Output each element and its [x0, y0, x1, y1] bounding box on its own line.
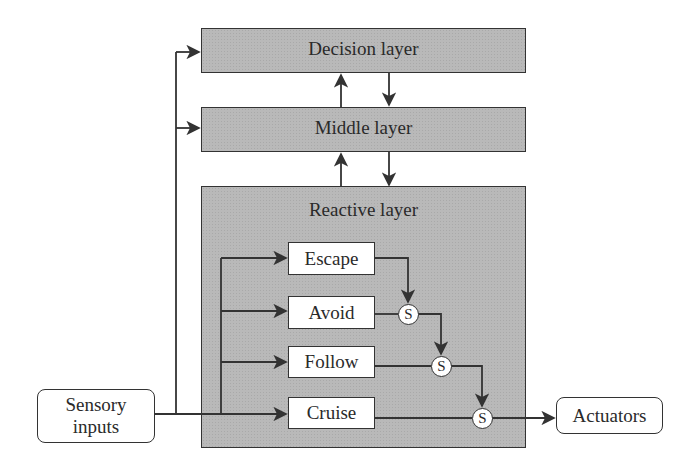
actuators-box: Actuators — [556, 397, 663, 434]
behavior-escape: Escape — [288, 242, 375, 275]
behavior-cruise: Cruise — [288, 397, 375, 429]
behavior-avoid: Avoid — [288, 296, 375, 329]
sensory-inputs-box: Sensory inputs — [37, 389, 155, 443]
suppressor-node-3: S — [472, 408, 493, 429]
sensory-inputs-line2: inputs — [73, 416, 119, 438]
suppressor-node-1: S — [398, 304, 419, 325]
sensory-inputs-line1: Sensory — [65, 394, 126, 416]
behavior-follow: Follow — [288, 346, 375, 378]
suppressor-node-2: S — [431, 356, 452, 377]
